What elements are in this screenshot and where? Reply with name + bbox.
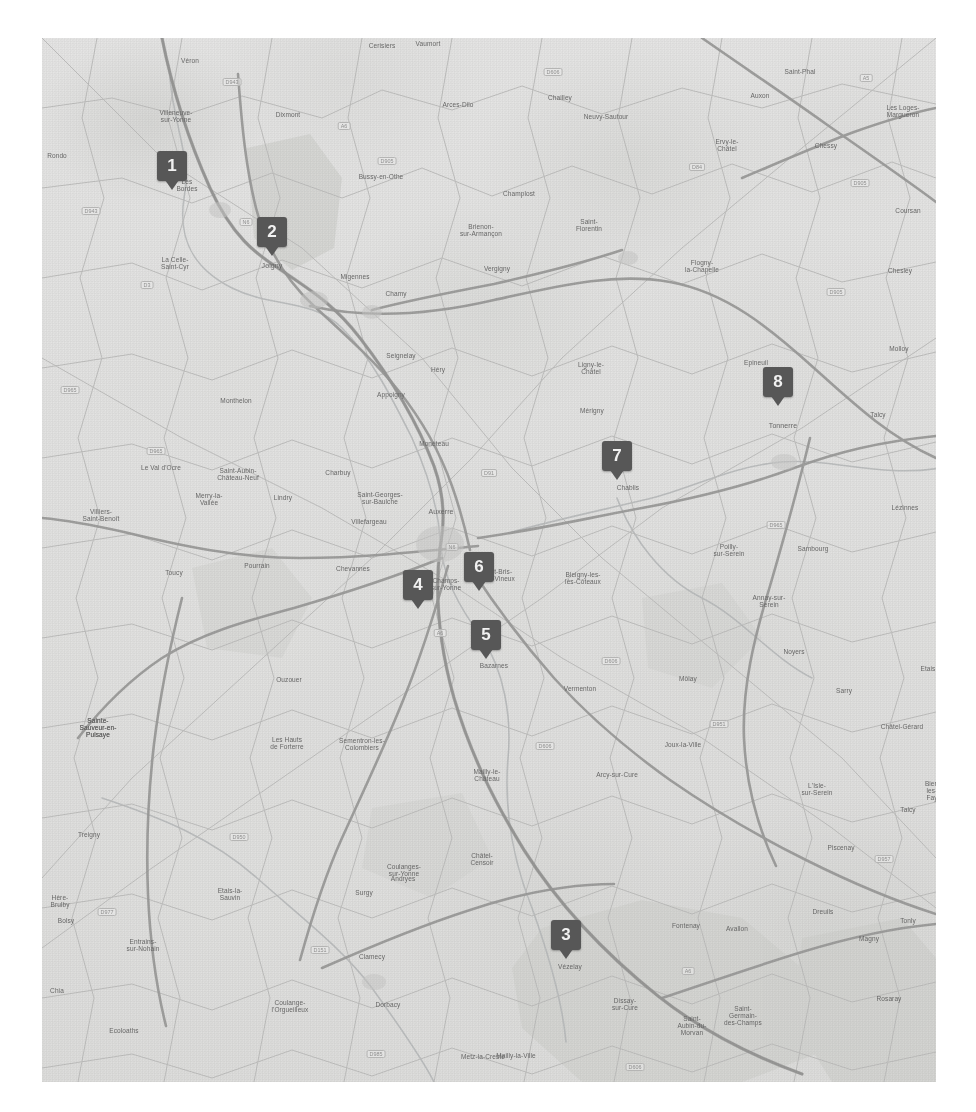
map-marker-4[interactable]: 4 [403,570,433,600]
place-label: Ouzouer [276,676,302,683]
place-label: Villeneuve- sur-Yonne [159,109,192,123]
place-label: Bolsy [58,917,74,924]
place-label: Toucy [165,569,182,576]
map-viewport[interactable]: VéronCerisiersVaumortSaint-PhalAuxonArce… [0,0,976,1112]
place-label: Chia [50,987,64,994]
map-marker-1[interactable]: 1 [157,151,187,181]
place-label: Migennes [341,273,370,280]
place-label: Merry-la- Vallée [196,492,223,506]
road-shield: D84 [689,163,705,171]
map-marker-2[interactable]: 2 [257,217,287,247]
place-label: Monthelon [220,397,251,404]
place-label: Les Hauts de Forterre [270,736,303,750]
place-label: Rondo [47,152,67,159]
place-label: Hère- Brulby [50,894,69,908]
place-label: Fontenay [672,922,700,929]
road-shield: D951 [710,720,729,728]
place-label: Flogny- la-Chapelle [685,259,719,273]
place-label: Le Val d'Ocre [141,464,181,471]
place-label: Ecoloaths [109,1027,138,1034]
place-label: Dreuils [813,908,834,915]
place-label: Brienon- sur-Armançon [460,223,502,237]
road-shield: D943 [223,78,242,86]
map-canvas[interactable]: VéronCerisiersVaumortSaint-PhalAuxonArce… [42,38,936,1082]
map-marker-7[interactable]: 7 [602,441,632,471]
place-label: Champlost [503,190,535,197]
place-label: Chesley [888,267,912,274]
place-label: Lézinnes [892,504,919,511]
place-label: Surgy [355,889,372,896]
place-label: Chablis [617,484,639,491]
place-label: Poilly- sur-Serein [714,543,745,557]
place-label: Mérigny [580,407,604,414]
place-label: Champs- sur-Yonne [431,577,461,591]
road-shield: D977 [98,908,117,916]
place-label: Vaumort [416,40,441,47]
place-label: Vermenton [564,685,596,692]
place-label: Coulange- l'Orgueilleux [272,999,309,1013]
place-label: Pourrain [244,562,269,569]
place-label: Entrains- sur-Nohain [127,938,160,952]
road-shield: D606 [544,68,563,76]
place-label: Etais [921,665,936,672]
place-label: Chamy [385,290,406,297]
road-shield: D965 [61,386,80,394]
place-label: Arcy-sur-Cure [596,771,638,778]
place-label: Héry [431,366,445,373]
place-label: Les Loges- Margueron [886,104,919,118]
place-label: Talcy [900,806,915,813]
road-shield: D905 [378,157,397,165]
road-shield: D950 [230,833,249,841]
road-shield: D965 [767,521,786,529]
place-label: Epineuil [744,359,768,366]
place-label: Piscenay [827,844,854,851]
place-label: Magny [859,935,879,942]
place-label: Vergigny [484,265,510,272]
place-label: Dixmont [276,111,301,118]
place-label: Saint-Aubin- Château-Neuf [217,467,259,481]
place-label: Saint- Florentin [576,218,602,232]
place-label: Joigny [262,262,283,270]
place-label: Tonnerre [769,422,797,430]
place-label: Dorbacy [376,1001,401,1008]
map-marker-3[interactable]: 3 [551,920,581,950]
place-label: Avallon [726,925,748,932]
place-label: Bier- les- Fay [925,780,936,802]
road-shield: A5 [860,74,873,82]
place-label: Clamecy [359,953,385,960]
place-label: Joux-la-Ville [665,741,702,748]
map-marker-6[interactable]: 6 [464,552,494,582]
road-shield: D985 [367,1050,386,1058]
place-label: Ervy-le- Châtel [715,138,738,152]
road-shield: D91 [481,469,497,477]
place-label: Bleigny-les- lès-Côteaux [565,571,601,585]
place-label: Rosaray [877,995,902,1002]
place-label: Chevannes [336,565,370,572]
place-label: Metz-la-Creste [461,1053,505,1060]
road-shield: A6 [338,122,351,130]
place-label: Dissay- sur-Cure [612,997,638,1011]
place-label: Annay-sur- Serein [753,594,786,608]
place-label: Saint- Aubin-du- Morvan [677,1015,706,1037]
road-shield: D606 [602,657,621,665]
road-shield: D606 [626,1063,645,1071]
road-shield: D151 [311,946,330,954]
place-label: Châtel- Censoir [470,852,493,866]
place-label: Cerisiers [369,42,396,49]
map-marker-8[interactable]: 8 [763,367,793,397]
place-label: Villefargeau [351,518,386,525]
place-label: Bazarnes [480,662,508,669]
place-label: Lindry [274,494,292,501]
place-label: Auxon [751,92,770,99]
road-shield: D905 [827,288,846,296]
place-label: Auxerre [428,508,453,516]
road-shield: D905 [851,179,870,187]
place-label: La Celle- Saint-Cyr [161,256,189,270]
place-label: Villiers- Saint-Benoît [83,508,120,522]
place-label: Neuvy-Sautour [584,113,629,120]
place-label: Chailley [548,94,572,101]
road-shield: N6 [446,543,459,551]
road-shield: D3 [141,281,154,289]
map-marker-5[interactable]: 5 [471,620,501,650]
place-label: Sementron-les- Colombiers [339,737,385,751]
